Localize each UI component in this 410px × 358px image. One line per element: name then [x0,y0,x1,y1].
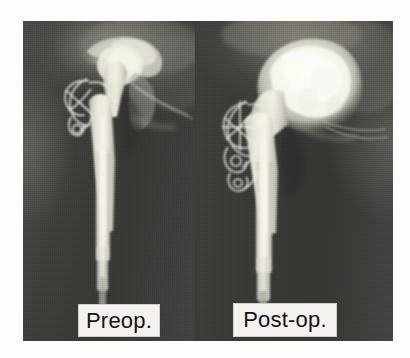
panel-label-preop: Preop. [78,304,160,337]
panel-label-postop: Post-op. [233,303,337,337]
panel-postop [196,21,393,341]
preop-radiograph-anatomy [23,21,195,341]
panel-preop [23,21,195,341]
radiograph-figure: Preop. Post-op. [0,0,410,358]
radiograph-image-block [23,21,393,341]
postop-radiograph-anatomy [196,21,393,341]
